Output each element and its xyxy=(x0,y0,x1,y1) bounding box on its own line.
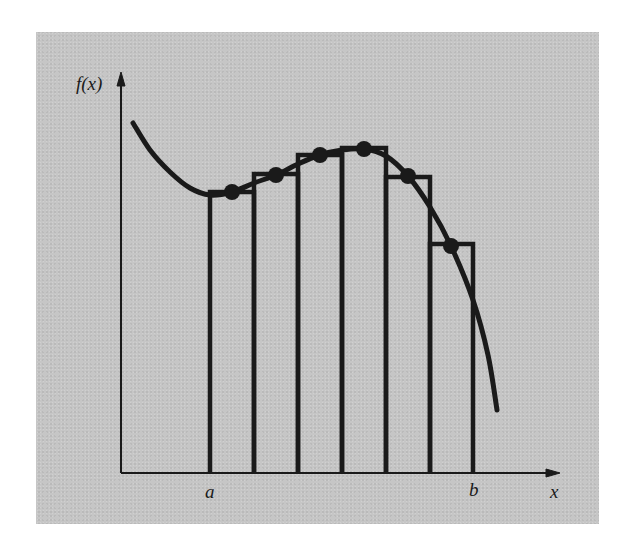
midpoint-marker-6 xyxy=(443,238,459,254)
midpoint-rectangle-5 xyxy=(386,177,430,473)
x-axis-label: x xyxy=(550,482,558,501)
midpoint-rectangle-2 xyxy=(254,174,298,473)
midpoint-marker-1 xyxy=(224,184,240,200)
y-axis-arrow-icon xyxy=(117,72,125,86)
interval-end-label-b: b xyxy=(469,480,479,499)
interval-start-label-a: a xyxy=(205,482,215,501)
midpoint-rectangle-4 xyxy=(342,148,386,473)
midpoint-marker-2 xyxy=(268,167,284,183)
midpoint-rectangle-3 xyxy=(298,155,342,473)
midpoint-rectangles xyxy=(210,148,473,473)
function-curve xyxy=(133,123,497,410)
y-axis-label: f(x) xyxy=(76,74,102,93)
midpoint-marker-5 xyxy=(400,168,416,184)
midpoint-marker-3 xyxy=(312,147,328,163)
axes xyxy=(117,72,560,477)
x-axis-arrow-icon xyxy=(546,469,560,477)
midpoint-rectangle-1 xyxy=(210,192,254,473)
midpoint-marker-4 xyxy=(356,141,372,157)
